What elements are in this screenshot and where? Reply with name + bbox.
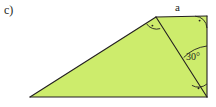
angle-label-30-degrees: 30° — [186, 52, 200, 62]
part-label-c: c) — [4, 4, 13, 16]
side-label-a: a — [175, 2, 180, 13]
triangle-diagram-svg — [0, 0, 216, 107]
geometry-figure: c) a 30° — [0, 0, 216, 107]
shape-fill-large-triangle — [30, 16, 207, 97]
